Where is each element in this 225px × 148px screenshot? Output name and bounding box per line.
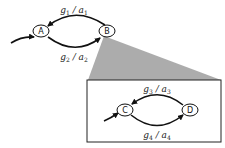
- edge-label-g3-a3: g3 / a3: [143, 84, 171, 95]
- state-diagram: A B g1 / a1 g2 / a2 C D g3 / a3 g4 / a4: [0, 0, 225, 148]
- state-b-label: B: [104, 27, 110, 36]
- edge-label-g4-a4: g4 / a4: [143, 130, 171, 141]
- state-a-label: A: [38, 27, 44, 36]
- edge-a-to-b: [48, 37, 100, 47]
- edge-b-to-a: [48, 15, 105, 26]
- edge-label-g2-a2: g2 / a2: [60, 52, 88, 63]
- state-d-label: D: [187, 106, 193, 115]
- initial-arrow-a: [11, 37, 34, 43]
- zoom-projection: [88, 36, 221, 80]
- state-c-label: C: [122, 106, 128, 115]
- edge-label-g1-a1: g1 / a1: [60, 5, 88, 16]
